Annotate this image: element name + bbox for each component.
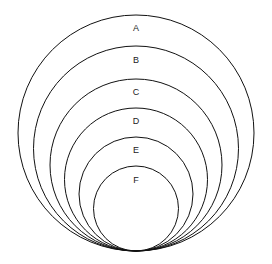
- circle-f: F: [94, 166, 179, 251]
- label-d: D: [133, 116, 140, 126]
- label-e: E: [133, 145, 139, 155]
- label-a: A: [133, 23, 139, 33]
- circle-c: C: [50, 79, 222, 251]
- circle-a: A: [18, 15, 254, 251]
- label-b: B: [133, 55, 139, 65]
- label-c: C: [133, 87, 140, 97]
- nested-circles-diagram: A B C D E F: [0, 0, 272, 264]
- label-f: F: [133, 175, 139, 185]
